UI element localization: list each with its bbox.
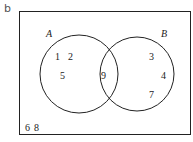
element-7: 7	[149, 89, 154, 100]
element-9: 9	[101, 70, 106, 81]
element-6: 6	[25, 122, 30, 133]
element-8: 8	[34, 122, 39, 133]
set-a-circle	[40, 35, 118, 113]
set-a-label: A	[45, 28, 53, 39]
element-4: 4	[161, 70, 166, 81]
element-1: 1	[55, 51, 60, 62]
element-5: 5	[60, 70, 65, 81]
element-2: 2	[68, 51, 73, 62]
element-3: 3	[149, 51, 154, 62]
set-b-label: B	[161, 28, 167, 39]
venn-diagram: A B 1 2 5 9 3 4 7 6 8	[0, 0, 193, 142]
